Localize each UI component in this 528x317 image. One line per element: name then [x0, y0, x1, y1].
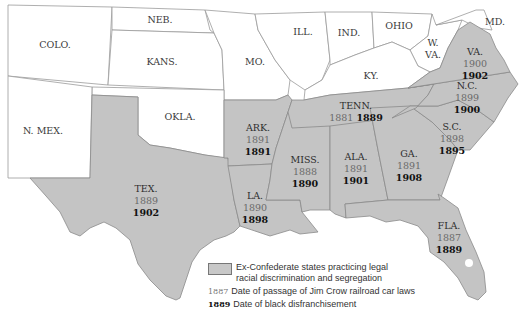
label-wva: W. VA.: [425, 37, 441, 61]
lake-okeechobee: [465, 259, 473, 267]
label-ill: ILL.: [293, 26, 312, 38]
legend-swatch: [208, 263, 232, 275]
legend-jim-crow-sample: 1887: [208, 286, 228, 297]
legend-row-jim-crow: 1887 Date of passage of Jim Crow railroa…: [208, 286, 415, 297]
label-nc: N.C. 1899 1900: [454, 80, 480, 116]
disfranchisement-year: 1889: [436, 244, 462, 256]
map-legend: Ex-Confederate states practicing legal r…: [208, 262, 415, 311]
label-fla: FLA. 1887 1889: [436, 220, 462, 256]
disfranchisement-year: 1890: [290, 178, 319, 190]
state-name: ARK.: [245, 122, 271, 134]
state-name: FLA.: [436, 220, 462, 232]
label-va: VA. 1900 1902: [462, 46, 488, 82]
disfranchisement-year: 1902: [133, 207, 159, 219]
jim-crow-year: 1899: [454, 92, 480, 104]
label-ga: GA. 1891 1908: [396, 148, 422, 184]
state-name: ALA.: [343, 151, 369, 163]
jim-crow-year: 1891: [245, 134, 271, 146]
jim-crow-year: 1889: [133, 195, 159, 207]
state-name: GA.: [396, 148, 422, 160]
jim-crow-year: 1891: [396, 160, 422, 172]
disfranchisement-year: 1891: [245, 146, 271, 158]
label-colo: COLO.: [39, 39, 71, 51]
label-tenn: TENN. 1881 1889: [329, 100, 383, 124]
label-tex: TEX. 1889 1902: [133, 183, 159, 219]
legend-row-confederate: Ex-Confederate states practicing legal r…: [208, 262, 415, 284]
disfranchisement-year: 1898: [242, 214, 268, 226]
state-name: TEX.: [133, 183, 159, 195]
label-miss: MISS. 1888 1890: [290, 154, 319, 190]
label-sc: S.C. 1898 1895: [439, 121, 465, 157]
disfranchisement-year: 1908: [396, 172, 422, 184]
legend-line-2: racial discrimination and segregation: [236, 273, 388, 284]
legend-confederate-text: Ex-Confederate states practicing legal r…: [236, 262, 388, 284]
label-la: LA. 1890 1898: [242, 190, 268, 226]
legend-disfranchisement-sample: 1889: [208, 299, 230, 310]
label-kans: KANS.: [146, 56, 177, 68]
label-md: MD.: [485, 16, 505, 28]
label-mo: MO.: [245, 56, 265, 68]
jim-crow-year: 1898: [439, 133, 465, 145]
legend-row-disfranchisement: 1889 Date of black disfranchisement: [208, 299, 415, 310]
state-name: MISS.: [290, 154, 319, 166]
disfranchisement-year: 1901: [343, 175, 369, 187]
state-name: S.C.: [439, 121, 465, 133]
label-ind: IND.: [338, 27, 360, 39]
state-name: TENN.: [329, 100, 383, 112]
legend-disfranchisement-text: Date of black disfranchisement: [233, 299, 356, 310]
label-neb: NEB.: [147, 14, 172, 26]
label-ark: ARK. 1891 1891: [245, 122, 271, 158]
jim-crow-year: 1891: [343, 163, 369, 175]
jim-crow-year: 1887: [436, 232, 462, 244]
legend-line-1: Ex-Confederate states practicing legal: [236, 262, 388, 273]
label-nmex: N. MEX.: [23, 125, 63, 137]
disfranchisement-year: 1895: [439, 145, 465, 157]
jim-crow-year: 1881: [329, 112, 353, 123]
state-name: LA.: [242, 190, 268, 202]
jim-crow-year: 1900: [462, 58, 488, 70]
jim-crow-year: 1888: [290, 166, 319, 178]
label-ala: ALA. 1891 1901: [343, 151, 369, 187]
legend-jim-crow-text: Date of passage of Jim Crow railroad car…: [231, 286, 415, 297]
label-ohio: OHIO: [385, 20, 413, 32]
disfranchisement-year: 1889: [356, 112, 382, 123]
label-okla: OKLA.: [164, 111, 195, 123]
disfranchisement-year: 1900: [454, 104, 480, 116]
state-name: VA.: [462, 46, 488, 58]
state-name: N.C.: [454, 80, 480, 92]
label-ky: KY.: [364, 70, 379, 82]
jim-crow-year: 1890: [242, 202, 268, 214]
